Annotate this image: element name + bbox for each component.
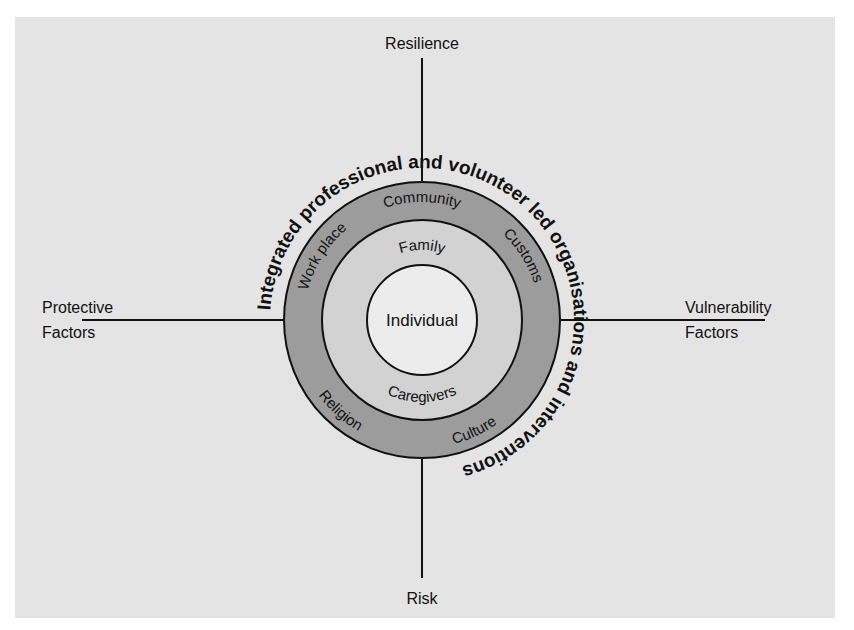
label-individual: Individual bbox=[386, 311, 458, 330]
axis-label-vulnerability: Vulnerability bbox=[685, 299, 772, 316]
ecological-model-diagram: Resilience Risk Protective Factors Vulne… bbox=[0, 0, 854, 630]
axis-label-protective: Protective bbox=[42, 299, 113, 316]
axis-label-vulnerability-factors: Factors bbox=[685, 324, 738, 341]
axis-label-protective-factors: Factors bbox=[42, 324, 95, 341]
axis-label-risk: Risk bbox=[406, 590, 438, 607]
axis-label-resilience: Resilience bbox=[385, 35, 459, 52]
